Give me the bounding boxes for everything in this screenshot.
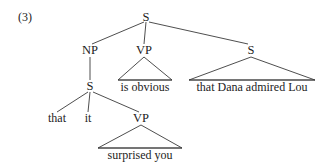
- node-vp-embedded: VP: [133, 112, 149, 125]
- edge-embedded-s-to-embedded-vp: [93, 92, 139, 112]
- edge-root-to-extraposed-s: [149, 22, 248, 44]
- triangle-that-dana-admired-lou: [189, 57, 315, 80]
- edge-root-to-np: [92, 22, 144, 44]
- edge-embedded-s-to-that: [57, 92, 88, 112]
- example-number: (3): [18, 11, 32, 23]
- triangle-surprised-you: [98, 125, 182, 148]
- syntax-tree-figure: (3) S NP VP S S VP is obvious that Dana …: [0, 0, 333, 166]
- leaf-that-dana-admired-lou: that Dana admired Lou: [197, 81, 308, 93]
- node-s-embedded: S: [87, 80, 94, 93]
- edge-embedded-s-to-it: [88, 92, 90, 112]
- triangle-is-obvious: [118, 57, 172, 80]
- leaf-surprised-you: surprised you: [108, 149, 173, 161]
- leaf-that: that: [48, 112, 66, 124]
- edge-root-to-vp: [144, 22, 146, 44]
- node-s-extraposed: S: [248, 44, 255, 57]
- node-root-s: S: [143, 11, 150, 24]
- leaf-is-obvious: is obvious: [120, 81, 169, 93]
- node-vp-matrix: VP: [136, 44, 152, 57]
- node-np: NP: [82, 44, 98, 57]
- leaf-it: it: [85, 112, 92, 124]
